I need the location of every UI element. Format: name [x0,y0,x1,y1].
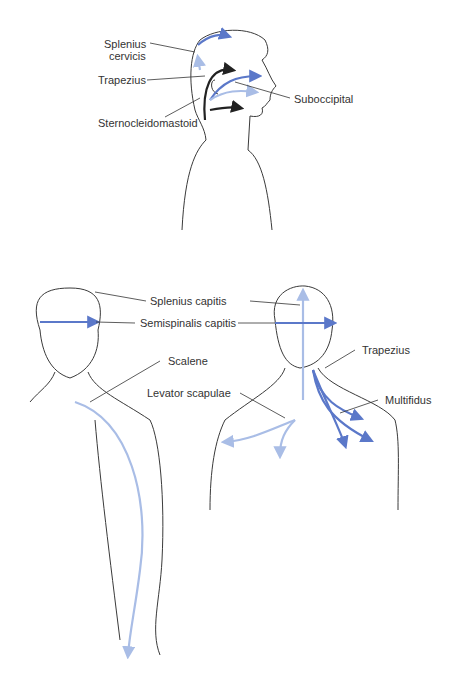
label-trapezius-side: Trapezius [98,74,146,86]
label-trapezius-back: Trapezius [362,344,410,356]
label-splenius-capitis: Splenius capitis [150,295,226,307]
referred-pain-diagram: Splenius cervicis Trapezius Sternocleido… [0,0,449,685]
label-splenius-cervicis: Splenius [104,38,146,50]
anatomy-illustration [0,0,449,685]
back-leader-lines [90,292,378,418]
label-scalene: Scalene [168,355,208,367]
side-leader-lines [147,43,290,117]
label-semispinalis-capitis: Semispinalis capitis [140,317,236,329]
label-suboccipital: Suboccipital [294,93,353,105]
label-splenius-cervicis-2: cervicis [109,50,146,62]
label-levator-scapulae: Levator scapulae [147,387,231,399]
side-muscle-arrows [198,35,258,120]
label-sternocleidomastoid: Sternocleidomastoid [98,117,198,129]
front-figure [30,288,163,655]
side-profile-figure [182,30,276,230]
label-multifidus: Multifidus [385,394,431,406]
front-muscle-arrows [40,322,142,655]
back-figure [210,286,398,510]
back-muscle-arrows [225,292,370,455]
